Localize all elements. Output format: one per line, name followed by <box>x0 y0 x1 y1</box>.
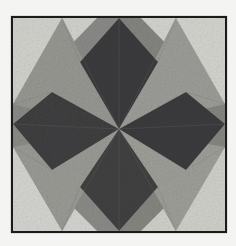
quilt-block-image <box>0 0 236 246</box>
quilt-patches <box>13 18 225 231</box>
screenshot-canvas <box>0 0 236 246</box>
quilt-block-svg <box>0 0 236 246</box>
photo-grain-overlay <box>13 18 225 231</box>
